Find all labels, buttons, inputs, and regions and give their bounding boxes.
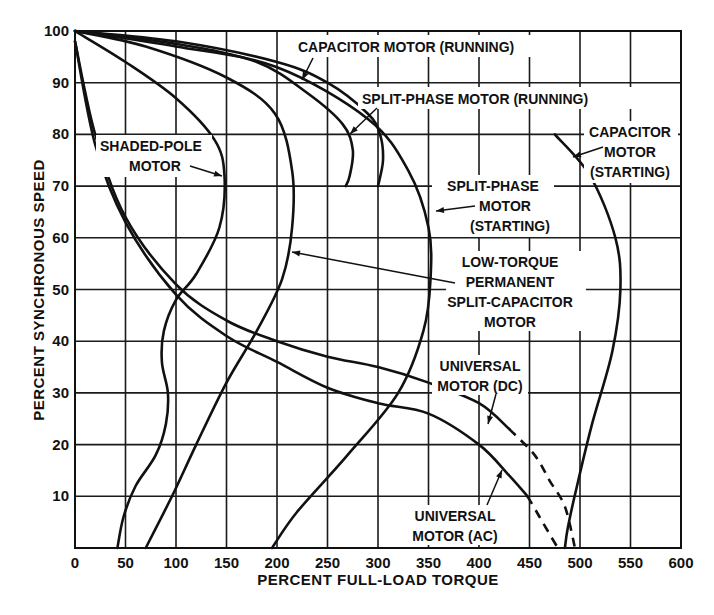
annotation-text: MOTOR (AC) xyxy=(412,528,497,544)
y-tick-label: 20 xyxy=(52,436,69,453)
y-tick-label: 90 xyxy=(52,74,69,91)
annotation-text: MOTOR xyxy=(604,144,656,160)
x-tick-label: 150 xyxy=(214,554,239,571)
annotation-split-phase-starting: SPLIT-PHASE MOTOR (STARTING) xyxy=(432,175,554,237)
y-tick-label: 60 xyxy=(52,229,69,246)
motor-speed-torque-chart: 0501001502002503003504004505005506001020… xyxy=(0,0,714,615)
y-tick-label: 50 xyxy=(52,281,69,298)
annotation-text: LOW-TORQUE xyxy=(462,254,559,270)
annotation-shaded-pole: SHADED-POLE MOTOR xyxy=(96,135,222,177)
annotation-text: MOTOR xyxy=(479,198,531,214)
x-tick-label: 200 xyxy=(264,554,289,571)
annotation-text: (STARTING) xyxy=(590,164,670,180)
y-tick-label: 10 xyxy=(52,487,69,504)
annotation-capacitor-starting: CAPACITOR MOTOR (STARTING) xyxy=(573,121,678,183)
x-tick-label: 600 xyxy=(668,554,693,571)
annotation-text: UNIVERSAL xyxy=(440,358,521,374)
annotation-text: (STARTING) xyxy=(470,218,550,234)
annotation-text: SPLIT-CAPACITOR xyxy=(447,294,573,310)
x-tick-label: 0 xyxy=(71,554,79,571)
annotation-text: CAPACITOR MOTOR (RUNNING) xyxy=(298,39,514,55)
annotation-text: MOTOR xyxy=(484,314,536,330)
annotation-text: MOTOR xyxy=(129,158,181,174)
annotation-text: CAPACITOR xyxy=(589,124,671,140)
x-tick-label: 50 xyxy=(117,554,134,571)
y-tick-label: 40 xyxy=(52,332,69,349)
chart-canvas: 0501001502002503003504004505005506001020… xyxy=(0,0,714,615)
y-tick-label: 100 xyxy=(44,22,69,39)
x-tick-label: 100 xyxy=(163,554,188,571)
x-tick-label: 550 xyxy=(618,554,643,571)
annotation-text: MOTOR (DC) xyxy=(437,378,522,394)
y-tick-label: 80 xyxy=(52,125,69,142)
y-tick-label: 70 xyxy=(52,177,69,194)
annotation-text: PERMANENT xyxy=(466,274,555,290)
x-tick-label: 400 xyxy=(466,554,491,571)
annotation-text: SPLIT-PHASE MOTOR (RUNNING) xyxy=(362,91,588,107)
annotation-text: SPLIT-PHASE xyxy=(447,178,539,194)
annotation-text: UNIVERSAL xyxy=(415,508,496,524)
x-tick-label: 450 xyxy=(517,554,542,571)
y-axis-title: PERCENT SYNCHRONOUS SPEED xyxy=(30,159,47,421)
x-axis-title: PERCENT FULL-LOAD TORQUE xyxy=(257,571,499,588)
x-tick-label: 500 xyxy=(567,554,592,571)
x-tick-label: 250 xyxy=(315,554,340,571)
annotation-text: SHADED-POLE xyxy=(100,138,202,154)
x-tick-label: 350 xyxy=(416,554,441,571)
y-tick-label: 30 xyxy=(52,384,69,401)
x-tick-label: 300 xyxy=(365,554,390,571)
